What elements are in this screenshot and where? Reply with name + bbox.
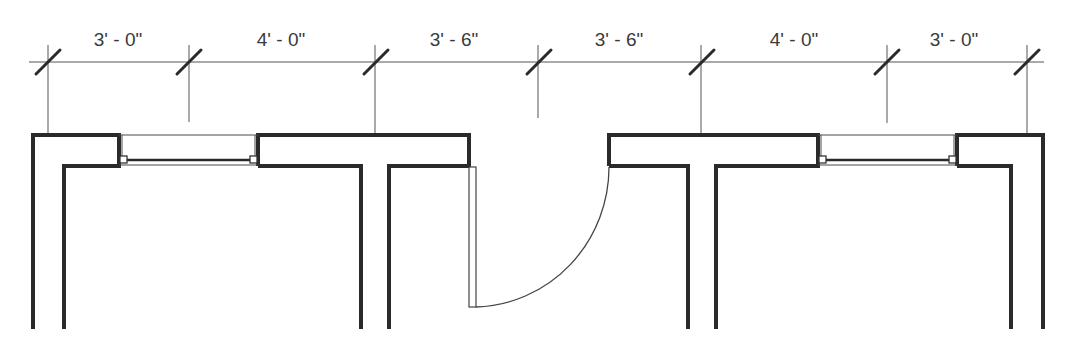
partition-wall-right — [609, 166, 688, 329]
dimension-label: 4' - 0" — [257, 29, 305, 50]
window-mullion-square — [949, 156, 956, 163]
window-mullion-square — [120, 156, 127, 163]
window-mullion-square — [819, 156, 826, 163]
dimension-label: 3' - 0" — [930, 29, 978, 50]
entry-door — [469, 167, 609, 307]
walls — [33, 135, 1043, 329]
partition-wall-left — [258, 166, 361, 329]
exterior-wall-right-inner — [957, 166, 1011, 329]
dimension-label: 3' - 6" — [430, 29, 478, 50]
dimension-label: 3' - 0" — [94, 29, 142, 50]
window-mullion-square — [250, 156, 257, 163]
door-swing-arc — [476, 167, 609, 307]
dimension-string: 3' - 0" 4' - 0" 3' - 6" 3' - 6" 4' - 0" … — [29, 29, 1044, 134]
door-leaf — [469, 167, 476, 307]
floor-plan-drawing: 3' - 0" 4' - 0" 3' - 6" 3' - 6" 4' - 0" … — [0, 0, 1066, 346]
window-left — [119, 135, 258, 165]
dimension-label: 3' - 6" — [595, 29, 643, 50]
exterior-wall-left — [33, 135, 119, 329]
dimension-label: 4' - 0" — [770, 29, 818, 50]
window-right — [818, 135, 957, 165]
